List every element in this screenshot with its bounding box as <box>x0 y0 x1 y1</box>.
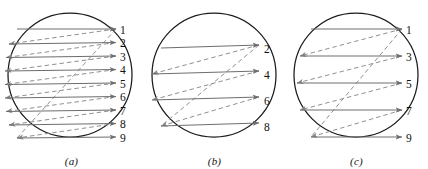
raster-scan-figure: 123456789 (a) 2468 (b) 13579 (c) <box>0 0 428 169</box>
scan-line-label: 2 <box>120 37 126 49</box>
scan-line-label: 9 <box>406 132 412 144</box>
scan-line-label: 1 <box>406 24 412 36</box>
retrace-line <box>17 124 116 139</box>
scan-line-label: 2 <box>264 43 270 55</box>
scan-trace-line <box>161 45 259 48</box>
scan-line-label: 3 <box>120 51 126 63</box>
panel-a: 123456789 (a) <box>0 0 143 169</box>
scan-line-label: 8 <box>120 118 126 130</box>
scan-trace-line <box>5 97 116 99</box>
retrace-line <box>300 83 402 110</box>
retrace-line <box>297 56 402 83</box>
retrace-line <box>300 29 402 56</box>
scan-line-label: 1 <box>120 24 126 36</box>
retrace-line <box>5 70 116 85</box>
panel-b-caption: (b) <box>143 155 286 167</box>
scan-trace-line <box>152 71 259 74</box>
panel-c-canvas: 13579 <box>285 0 428 150</box>
retrace-line <box>311 110 402 137</box>
panel-c: 13579 (c) <box>285 0 428 169</box>
retrace-line <box>161 97 259 126</box>
scan-line-label: 5 <box>120 78 126 90</box>
panel-a-caption: (a) <box>0 155 143 167</box>
scan-trace-line <box>6 56 116 58</box>
scan-line-label: 6 <box>120 91 126 103</box>
scan-line-label: 6 <box>264 95 270 107</box>
retrace-line <box>152 71 259 100</box>
panel-b-canvas: 2468 <box>143 0 286 150</box>
retrace-line <box>6 97 116 112</box>
scan-trace-line <box>9 43 116 45</box>
retrace-line <box>6 43 116 58</box>
panel-a-canvas: 123456789 <box>0 0 143 150</box>
retrace-line <box>9 29 116 44</box>
scan-line-label: 9 <box>120 132 126 144</box>
scan-trace-line <box>9 124 116 126</box>
panel-c-caption: (c) <box>285 155 428 167</box>
retrace-line <box>152 45 259 74</box>
scan-trace-line <box>152 97 259 100</box>
scan-line-label: 4 <box>120 64 126 76</box>
panel-b: 2468 (b) <box>143 0 286 169</box>
scan-trace-line <box>17 137 116 138</box>
scan-line-label: 7 <box>120 105 126 117</box>
scan-trace-line <box>5 70 116 72</box>
scan-line-label: 5 <box>406 78 412 90</box>
scan-line-label: 3 <box>406 51 412 63</box>
scan-line-label: 8 <box>264 121 270 133</box>
vertical-retrace-line <box>161 45 259 126</box>
retrace-line <box>5 56 116 71</box>
scan-trace-line <box>6 110 116 112</box>
scan-trace-line <box>5 83 116 85</box>
scan-line-label: 4 <box>264 69 270 81</box>
scan-line-label: 7 <box>406 105 412 117</box>
